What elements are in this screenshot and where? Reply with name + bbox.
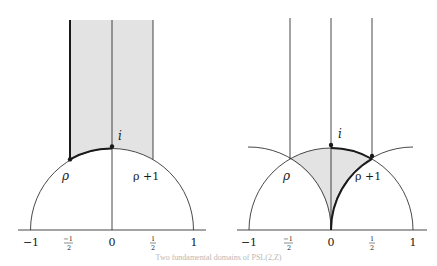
right-label-i: i: [338, 127, 342, 141]
left-shaded-region: [70, 20, 153, 159]
right-point-i: [329, 143, 333, 147]
left-point-i: [110, 144, 114, 148]
right-tick-neg1: −1: [241, 236, 257, 249]
right-label-rho-plus-1: ρ +1: [355, 170, 381, 183]
right-figure: i ρ ρ +1 −1 −1 2 0 1 2 1: [237, 18, 427, 252]
left-tick-0: 0: [109, 236, 116, 249]
left-tick-half-num: 1: [151, 235, 155, 243]
right-tick-neg-half-num: −1: [283, 235, 293, 243]
left-label-rho: ρ: [61, 169, 69, 183]
right-tick-0: 0: [328, 236, 335, 249]
left-tick-neg1: −1: [23, 236, 39, 249]
figure-caption: Two fundamental domains of PSL(2,Z): [0, 253, 437, 262]
left-tick-1: 1: [191, 236, 198, 249]
left-tick-neg-half-num: −1: [63, 235, 73, 243]
left-figure: i ρ ρ +1 −1 −1 2 0 1 2 1: [18, 20, 206, 252]
fundamental-domain-diagrams: i ρ ρ +1 −1 −1 2 0 1 2 1 i: [0, 0, 437, 266]
right-label-rho: ρ: [282, 169, 290, 183]
right-tick-1: 1: [410, 236, 417, 249]
right-tick-neg-half-den: 2: [287, 244, 291, 252]
left-tick-neg-half-den: 2: [67, 244, 71, 252]
left-label-rho-plus-1: ρ +1: [133, 170, 159, 183]
right-tick-half-num: 1: [370, 235, 374, 243]
left-tick-half-den: 2: [151, 244, 155, 252]
left-point-rho: [68, 157, 72, 161]
left-label-i: i: [118, 129, 122, 143]
right-point-rho-plus-1: [370, 154, 374, 158]
right-tick-half-den: 2: [370, 244, 374, 252]
